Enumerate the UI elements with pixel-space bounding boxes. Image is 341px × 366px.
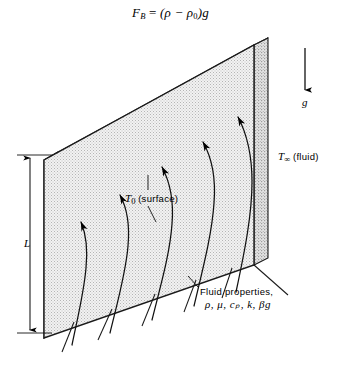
fluid-temperature-suffix: (fluid): [293, 151, 319, 162]
fluid-properties-symbols: ρ, μ, cₚ, k, βg: [200, 298, 273, 311]
plate-height-label: L: [24, 237, 30, 249]
fluid-temperature-label: T∞ (fluid): [278, 150, 319, 164]
plate-right-edge: [254, 38, 268, 265]
surface-temperature-label: T0 (surface): [125, 192, 178, 206]
gravity-label: g: [302, 96, 308, 108]
figure-canvas: FB = (ρ − ρ0)g: [0, 0, 341, 366]
fluid-properties-label: Fluid properties, ρ, μ, cₚ, k, βg: [200, 285, 273, 311]
surface-temperature-suffix: (surface): [138, 193, 178, 204]
convection-plate-drawing: [0, 0, 341, 366]
surface-temperature-subscript: 0: [131, 196, 135, 206]
fluid-properties-caption: Fluid properties,: [200, 285, 273, 298]
fluid-temperature-subscript: ∞: [284, 154, 290, 164]
